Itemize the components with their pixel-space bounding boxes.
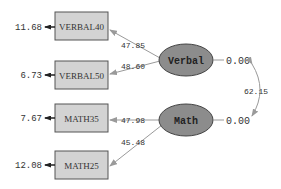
loading-value: 47.98 [121,116,145,125]
error-arrow-verbal40: 11.68 [15,23,55,33]
loading-value: 47.85 [121,41,145,50]
error-variance: 6.73 [20,71,42,81]
observed-label: MATH25 [64,161,99,171]
observed-box-math35[interactable]: MATH35 [55,104,108,132]
latent-math[interactable]: Math [159,104,213,136]
loading-value: 45.48 [121,138,145,147]
loading-path-verbal50[interactable]: 48.60 [110,61,160,74]
latent-label: Math [174,116,198,127]
observed-box-math25[interactable]: MATH25 [55,151,108,179]
error-arrow-math25: 12.08 [15,161,55,171]
path-diagram: VERBAL40 VERBAL50 MATH35 MATH25 11.68 6.… [0,0,281,189]
observed-label: VERBAL50 [59,71,105,81]
loading-path-math25[interactable]: 45.48 [110,125,162,166]
error-arrow-math35: 7.67 [20,114,55,124]
factor-variance-math: 0.00 [226,116,250,127]
latent-verbal[interactable]: Verbal [159,44,213,76]
loading-value: 48.60 [121,62,145,71]
observed-label: MATH35 [64,114,99,124]
error-arrow-verbal50: 6.73 [20,71,55,81]
loading-path-math35[interactable]: 47.98 [110,116,159,125]
covariance-value: 62.15 [244,87,268,96]
factor-variance-verbal: 0.00 [226,56,250,67]
error-variance: 11.68 [15,23,42,33]
error-variance: 12.08 [15,161,42,171]
covariance-arc[interactable]: 62.15 [244,64,268,116]
observed-box-verbal40[interactable]: VERBAL40 [55,12,108,40]
error-variance: 7.67 [20,114,42,124]
loading-path-verbal40[interactable]: 47.85 [110,30,160,58]
observed-box-verbal50[interactable]: VERBAL50 [55,61,108,89]
observed-label: VERBAL40 [59,22,105,32]
latent-label: Verbal [168,56,204,67]
